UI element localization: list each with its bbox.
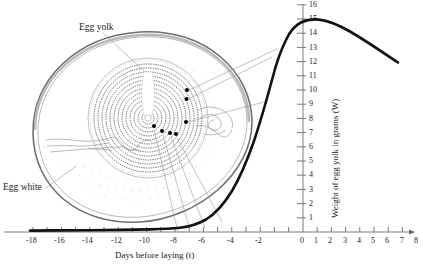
y-tick-label: 9: [309, 99, 313, 108]
y-tick-label: 5: [309, 156, 313, 165]
x-tick-label: 6: [385, 236, 389, 245]
yolk-sample-dot: [160, 129, 164, 133]
yolk-sample-dot: [185, 88, 189, 92]
y-tick-label: 12: [309, 57, 317, 66]
x-tick-label: -2: [255, 236, 262, 245]
y-tick-label: 6: [309, 142, 313, 151]
x-tick-label: 1: [314, 236, 318, 245]
x-tick-label: -18: [26, 236, 37, 245]
x-tick-label: -10: [139, 236, 150, 245]
egg-illustration: [33, 32, 252, 223]
yolk-sample-dot: [168, 131, 172, 135]
y-tick-label: 14: [309, 28, 317, 37]
figure-canvas: Egg yolk Egg white -18 -16 -14 -12 -10 -…: [0, 0, 423, 267]
y-tick-label: 1: [309, 213, 313, 222]
leader-line: [189, 49, 277, 90]
x-tick-label: -12: [111, 236, 122, 245]
y-axis-title: Weight of egg yolk in grams (W): [330, 99, 340, 218]
y-tick-label: 3: [309, 185, 313, 194]
x-tick-label: 7: [400, 236, 404, 245]
callout-egg-yolk: Egg yolk: [79, 22, 114, 32]
x-tick-label: -14: [82, 236, 93, 245]
x-tick-label: -8: [170, 236, 177, 245]
egg-membrane: [38, 37, 247, 218]
callout-egg-white: Egg white: [3, 182, 42, 192]
x-tick-label: -4: [227, 236, 234, 245]
x-axis-title: Days before laying (t): [115, 250, 194, 260]
x-tick-label: 2: [328, 236, 332, 245]
egg-shell-highlight: [35, 35, 249, 130]
yolk-latebra: [142, 72, 155, 119]
yolk-centre: [145, 115, 151, 121]
x-tick-label: 0: [300, 236, 304, 245]
y-tick-label: 2: [309, 199, 313, 208]
x-tick-label: 3: [343, 236, 347, 245]
yolk-sample-dot: [185, 97, 189, 101]
figure-svg: [0, 0, 423, 267]
leader-line: [188, 57, 272, 99]
y-tick-label: 4: [309, 170, 313, 179]
y-tick-label: 13: [309, 43, 317, 52]
y-tick-label: 11: [309, 71, 317, 80]
y-tick-label: 8: [309, 114, 313, 123]
x-tick-label: 5: [371, 236, 375, 245]
y-axis-ticks: [297, 5, 306, 218]
x-tick-label: -6: [198, 236, 205, 245]
y-tick-label: 7: [309, 128, 313, 137]
yolk-sample-dot: [152, 124, 156, 128]
leader-line: [177, 138, 222, 222]
yolk-sample-dot: [184, 120, 188, 124]
y-tick-label: 15: [309, 14, 317, 23]
x-tick-label: 4: [357, 236, 361, 245]
yolk-sample-dots: [152, 88, 189, 136]
x-tick-label: 8: [414, 236, 418, 245]
y-tick-label: 10: [309, 85, 317, 94]
x-tick-label: -16: [54, 236, 65, 245]
y-tick-label: 16: [309, 0, 317, 9]
yolk-sample-dot: [174, 132, 178, 136]
